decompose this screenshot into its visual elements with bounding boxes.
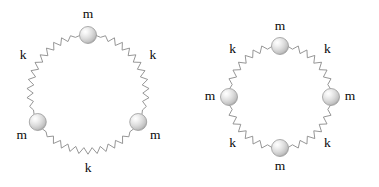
mass-sphere — [80, 27, 97, 44]
spring-three-mass-ring-1 — [43, 129, 134, 154]
mass-label: m — [150, 127, 161, 142]
ring-oscillator-diagram: mmmkkkmmmmkkkk — [0, 0, 379, 187]
mass-sphere — [272, 140, 289, 157]
spring-constant-label: k — [150, 47, 157, 62]
springs-layer — [27, 36, 331, 155]
mass-label: m — [83, 6, 94, 21]
spring-constant-label: k — [229, 41, 236, 56]
labels-layer: mmmkkkmmmmkkkk — [17, 6, 356, 175]
mass-label: m — [275, 18, 286, 33]
spring-three-mass-ring-2 — [96, 36, 149, 115]
spring-constant-label: k — [20, 47, 27, 62]
spring-constant-label: k — [324, 41, 331, 56]
mass-sphere — [29, 114, 46, 131]
figure-canvas: mmmkkkmmmmkkkk — [0, 0, 379, 187]
spring-three-mass-ring-0 — [27, 36, 80, 115]
mass-label: m — [345, 88, 356, 103]
mass-sphere — [272, 38, 289, 55]
mass-label: m — [275, 158, 286, 173]
masses-layer — [29, 27, 339, 157]
mass-label: m — [205, 88, 216, 103]
mass-sphere — [221, 89, 238, 106]
mass-sphere — [323, 89, 340, 106]
spring-constant-label: k — [85, 160, 92, 175]
mass-label: m — [17, 127, 28, 142]
spring-constant-label: k — [324, 135, 331, 150]
mass-sphere — [130, 114, 147, 131]
spring-constant-label: k — [229, 135, 236, 150]
